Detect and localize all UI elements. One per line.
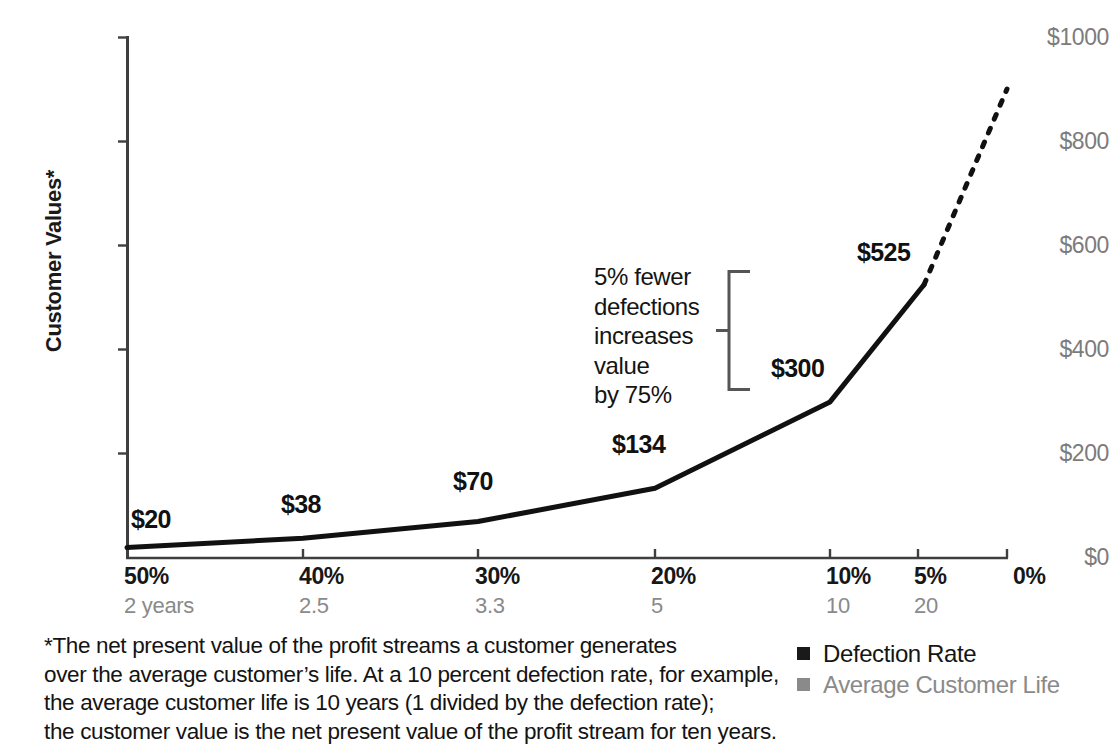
x-tick-rate-40: 40% (299, 563, 344, 590)
legend-item-average-customer-life: Average Customer Life (797, 669, 1060, 700)
y-axis-title: Customer Values* (41, 161, 67, 361)
x-tick-life-5: 5 (651, 593, 663, 619)
point-label-38: $38 (281, 490, 321, 519)
y-tick-label-600: $600 (997, 232, 1109, 259)
annotation-line-3: increases (594, 321, 699, 351)
y-tick-label-1000: $1000 (997, 24, 1109, 51)
footnote: *The net present value of the profit str… (44, 632, 779, 746)
x-tick-life-10: 10 (826, 593, 850, 619)
x-tick-rate-20: 20% (651, 563, 696, 590)
x-axis-ticks (303, 549, 1007, 558)
point-label-300: $300 (771, 354, 824, 383)
footnote-line-3: the average customer life is 10 years (1… (44, 689, 779, 718)
point-label-525: $525 (857, 238, 910, 267)
legend-swatch-icon-defection-rate (797, 647, 810, 660)
footnote-line-2: over the average customer’s life. At a 1… (44, 661, 779, 690)
legend-item-defection-rate: Defection Rate (797, 638, 1060, 669)
series-line-projection (924, 89, 1007, 285)
y-tick-label-400: $400 (997, 336, 1109, 363)
point-label-20: $20 (131, 505, 171, 534)
annotation-line-5: by 75% (594, 380, 699, 410)
legend-swatch-icon-average-customer-life (797, 678, 810, 691)
chart-legend: Defection Rate Average Customer Life (797, 638, 1060, 700)
footnote-line-1: *The net present value of the profit str… (44, 632, 779, 661)
annotation-line-2: defections (594, 292, 699, 322)
point-label-134: $134 (612, 430, 665, 459)
y-tick-label-800: $800 (997, 128, 1109, 155)
x-tick-life-2-5: 2.5 (299, 593, 329, 619)
x-tick-rate-50: 50% (124, 563, 169, 590)
x-tick-life-20: 20 (914, 593, 938, 619)
annotation-callout: 5% fewer defections increases value by 7… (594, 262, 699, 410)
point-label-70: $70 (453, 467, 493, 496)
x-tick-life-3-3: 3.3 (475, 593, 505, 619)
legend-label-defection-rate: Defection Rate (823, 640, 976, 668)
y-tick-label-200: $200 (997, 440, 1109, 467)
x-tick-rate-0: 0% (1013, 563, 1045, 590)
footnote-line-4: the customer value is the net present va… (44, 718, 779, 747)
series-line-customer-value (127, 285, 924, 548)
annotation-line-4: value (594, 351, 699, 381)
legend-label-average-customer-life: Average Customer Life (823, 671, 1060, 699)
x-tick-life-2years: 2 years (124, 593, 194, 619)
chart-container: Customer Values* $1000 $800 $600 $400 $2… (0, 0, 1109, 749)
annotation-line-1: 5% fewer (594, 262, 699, 292)
bracket-callout-icon (716, 270, 750, 391)
x-tick-rate-5: 5% (914, 563, 946, 590)
x-tick-rate-30: 30% (475, 563, 520, 590)
x-tick-rate-10: 10% (826, 563, 871, 590)
